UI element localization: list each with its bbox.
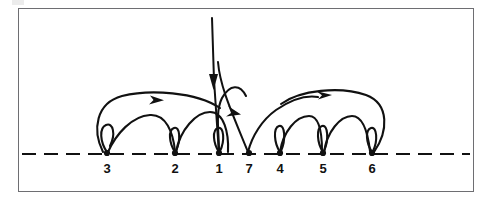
arrowhead-right-on-3-1-arc — [149, 96, 164, 105]
node-dot-4 — [277, 150, 283, 156]
node-dot-3 — [104, 150, 110, 156]
permutation-cycle-diagram: 3 2 1 7 4 5 6 — [0, 0, 492, 202]
arc-2-to-1 — [176, 112, 228, 152]
node-label-4: 4 — [276, 161, 284, 176]
node-dot-5 — [320, 150, 326, 156]
arc-3-to-2 — [108, 115, 175, 152]
arc-4-to-5 — [280, 116, 322, 152]
node-label-6: 6 — [368, 161, 375, 176]
node-label-1: 1 — [215, 161, 222, 176]
arc-5-to-6 — [324, 116, 370, 152]
arrowhead-left-on-6-4-arc — [316, 91, 332, 100]
arrowhead-down-main — [209, 74, 218, 90]
node-label-2: 2 — [171, 161, 178, 176]
figure-root: 3 2 1 7 4 5 6 — [0, 0, 492, 202]
node-dot-7 — [246, 150, 252, 156]
node-dot-1 — [216, 150, 222, 156]
node-label-5: 5 — [319, 161, 326, 176]
node-dot-2 — [172, 150, 178, 156]
node-label-3: 3 — [103, 161, 110, 176]
node-dot-6 — [369, 150, 375, 156]
loop-node-3 — [101, 125, 113, 152]
node-label-7: 7 — [245, 161, 252, 176]
